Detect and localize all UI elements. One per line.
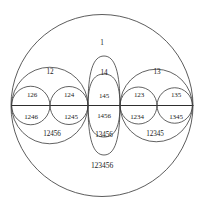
region-label-13: 13 — [154, 69, 161, 76]
region-label-145: 145 — [99, 93, 109, 100]
region-label-1345: 1345 — [169, 114, 183, 121]
region-label-14: 14 — [101, 70, 108, 77]
region-label-12345: 12345 — [146, 131, 163, 138]
region-label-126: 126 — [27, 92, 37, 99]
middle-inner-lens-left — [88, 74, 120, 106]
region-label-12456: 12456 — [43, 131, 60, 138]
region-label-135: 135 — [171, 92, 181, 99]
region-label-1: 1 — [100, 40, 104, 47]
region-label-1234: 1234 — [130, 114, 144, 121]
region-label-1245: 1245 — [64, 114, 78, 121]
region-label-123: 123 — [134, 92, 144, 99]
region-label-123456: 123456 — [91, 162, 113, 170]
venn-diagram: 1 12 14 13 126 124 145 123 135 1246 1245… — [0, 0, 205, 211]
venn-diagram-canvas — [0, 0, 205, 211]
region-label-13456: 13456 — [95, 132, 112, 139]
region-label-1456: 1456 — [97, 113, 111, 120]
region-label-12: 12 — [47, 69, 54, 76]
region-label-1246: 1246 — [24, 114, 38, 121]
region-label-124: 124 — [64, 92, 74, 99]
